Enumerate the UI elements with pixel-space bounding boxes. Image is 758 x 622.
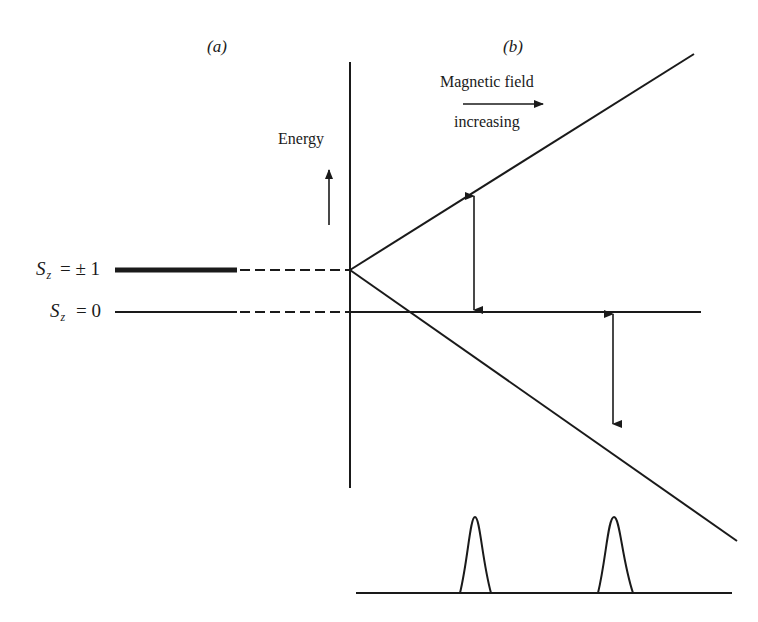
field-label: Magnetic field	[440, 73, 534, 91]
panel-a-label: (a)	[207, 37, 227, 57]
spin-symbol: S	[50, 300, 60, 321]
spin-subscript: z	[61, 310, 66, 324]
energy-label: Energy	[278, 130, 324, 148]
zeeman-splitting-diagram: (a) (b) Energy Magnetic field increasing…	[0, 0, 758, 622]
absorption-peak-2	[598, 517, 633, 593]
field-label-increasing: increasing	[454, 113, 520, 131]
absorption-peak-1	[460, 517, 491, 593]
diagram-drawing	[0, 0, 758, 622]
spin-subscript: z	[47, 268, 52, 282]
spin-symbol: S	[36, 258, 46, 279]
level-label-0: Sz = 0	[50, 300, 101, 325]
level-value: = 0	[76, 300, 101, 321]
panel-b-label: (b)	[503, 37, 523, 57]
level-minus1-line	[350, 270, 737, 541]
level-value: = ± 1	[60, 258, 100, 279]
level-label-pm1: Sz = ± 1	[36, 258, 100, 283]
